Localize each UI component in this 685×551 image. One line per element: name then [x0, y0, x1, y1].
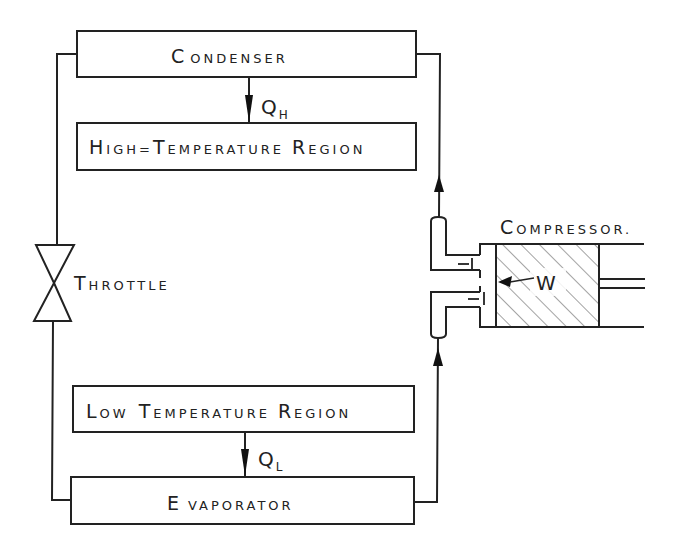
cylinder-head-lower — [480, 307, 496, 327]
low-temperature-region-label: LOWTEMPERATUREREGION — [86, 400, 351, 422]
cylinder-head-upper — [480, 244, 496, 255]
evaporator-label: EVAPORATOR — [167, 492, 294, 514]
q-low-label: QL — [258, 447, 283, 474]
throttle-label: THROTTLE — [73, 272, 170, 294]
suction-arrowhead-icon — [433, 348, 443, 366]
condenser-label: CONDENSER — [171, 45, 288, 67]
left-pipe-lower — [52, 321, 71, 500]
high-temperature-region-label: HIGH=TEMPERATUREREGION — [89, 136, 365, 158]
q-high-label: QH — [261, 95, 288, 122]
refrigeration-cycle-diagram: CONDENSER HIGH=TEMPERATUREREGION LOWTEMP… — [0, 0, 685, 551]
q-low-arrowhead-icon — [241, 449, 249, 476]
throttle-valve-icon — [36, 245, 74, 283]
discharge-arrowhead-icon — [434, 175, 444, 192]
left-pipe-upper — [57, 54, 77, 245]
compressor-label: COMPRESSOR. — [500, 216, 632, 238]
right-pipe-upper — [416, 54, 440, 217]
work-label: W — [536, 271, 556, 295]
q-high-arrowhead-icon — [245, 95, 253, 122]
throttle-valve-icon-lower — [34, 283, 71, 321]
